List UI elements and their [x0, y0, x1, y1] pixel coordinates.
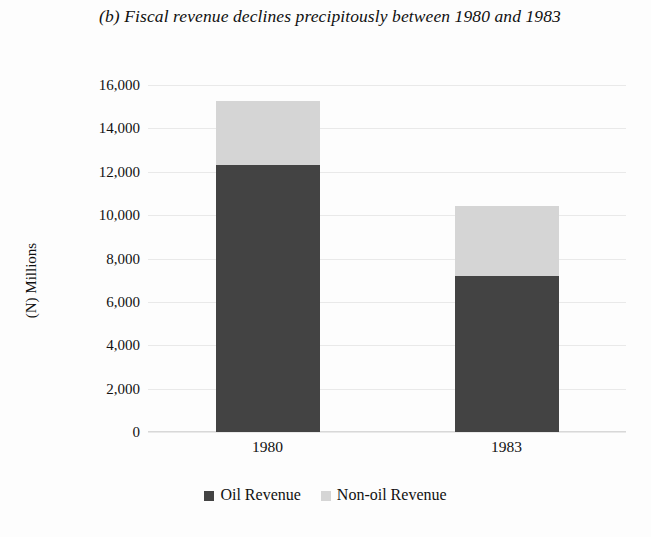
- x-tick-label: 1980: [198, 438, 338, 456]
- y-tick-label: 4,000: [56, 337, 140, 354]
- chart-legend: Oil RevenueNon-oil Revenue: [0, 486, 651, 504]
- bar-segment[interactable]: [455, 206, 559, 276]
- bar-segment[interactable]: [455, 276, 559, 432]
- chart-title: (b) Fiscal revenue declines precipitousl…: [70, 4, 590, 29]
- legend-label: Oil Revenue: [220, 486, 300, 504]
- x-axis-tick-labels: 19801983: [148, 438, 626, 464]
- legend-item[interactable]: Non-oil Revenue: [321, 486, 447, 504]
- plot-area: [148, 85, 626, 432]
- x-tick-label: 1983: [437, 438, 577, 456]
- y-tick-label: 8,000: [56, 250, 140, 267]
- bar-segment[interactable]: [216, 101, 320, 165]
- gridline: [148, 432, 626, 433]
- y-tick-label: 14,000: [56, 120, 140, 137]
- y-tick-label: 6,000: [56, 293, 140, 310]
- y-tick-label: 12,000: [56, 163, 140, 180]
- legend-swatch-icon: [204, 491, 214, 501]
- legend-label: Non-oil Revenue: [337, 486, 447, 504]
- y-tick-label: 2,000: [56, 380, 140, 397]
- bar-segment[interactable]: [216, 165, 320, 432]
- legend-swatch-icon: [321, 491, 331, 501]
- y-axis-tick-labels: 16,00014,00012,00010,0008,0006,0004,0002…: [52, 85, 140, 432]
- y-tick-label: 10,000: [56, 207, 140, 224]
- y-tick-label: 0: [56, 424, 140, 441]
- bar-group[interactable]: [216, 85, 320, 432]
- legend-item[interactable]: Oil Revenue: [204, 486, 300, 504]
- y-tick-label: 16,000: [56, 77, 140, 94]
- chart-figure: (b) Fiscal revenue declines precipitousl…: [0, 0, 651, 537]
- y-axis-title: (N) Millions: [23, 216, 40, 346]
- bar-group[interactable]: [455, 85, 559, 432]
